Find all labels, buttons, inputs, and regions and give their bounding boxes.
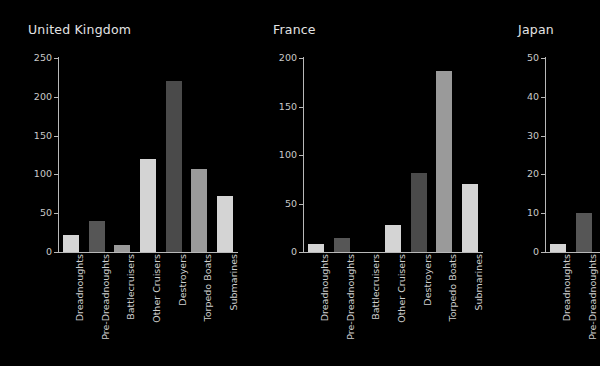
bar — [166, 81, 182, 252]
bar — [191, 169, 207, 252]
panel-title: Japan — [518, 22, 554, 37]
bar — [550, 244, 566, 252]
y-axis-tick-label: 150 — [34, 131, 52, 141]
bar — [385, 225, 401, 252]
y-axis-tick — [54, 213, 58, 214]
x-axis-category-label: Other Cruisers — [397, 254, 407, 323]
y-axis-tick-label: 200 — [279, 53, 297, 63]
x-axis-category-label: Pre-Dreadnoughts — [346, 254, 356, 340]
x-axis-category-label: Submarines — [229, 254, 239, 311]
bar — [89, 221, 105, 252]
x-axis-category-label: Submarines — [474, 254, 484, 311]
x-axis-line — [303, 252, 483, 253]
y-axis-tick-label: 0 — [46, 247, 52, 257]
y-axis-tick-label: 0 — [291, 247, 297, 257]
y-axis-tick-label: 100 — [279, 150, 297, 160]
y-axis-tick — [541, 252, 545, 253]
bar — [63, 235, 79, 252]
x-axis-category-label: Pre-Dreadnoughts — [101, 254, 111, 340]
x-axis-line — [58, 252, 238, 253]
x-axis-category-label: Dreadnoughts — [320, 254, 330, 321]
y-axis-tick-label: 50 — [527, 53, 539, 63]
y-axis-tick-label: 100 — [34, 170, 52, 180]
y-axis-tick-label: 20 — [527, 170, 539, 180]
y-axis-tick — [541, 58, 545, 59]
y-axis-tick-label: 150 — [279, 102, 297, 112]
x-axis-category-label: Torpedo Boats — [203, 254, 213, 321]
x-axis-category-label: Torpedo Boats — [448, 254, 458, 321]
y-axis-tick — [299, 252, 303, 253]
panel-title: France — [273, 22, 316, 37]
figure-canvas: United Kingdom050100150200250Dreadnought… — [0, 0, 600, 366]
y-axis-tick — [541, 174, 545, 175]
y-axis-tick — [541, 97, 545, 98]
y-axis-line — [545, 57, 546, 253]
y-axis-tick — [541, 136, 545, 137]
y-axis-tick — [299, 107, 303, 108]
bar — [462, 184, 478, 252]
y-axis-tick-label: 40 — [527, 92, 539, 102]
bar — [334, 238, 350, 252]
bar — [436, 71, 452, 252]
y-axis-tick-label: 50 — [285, 199, 297, 209]
y-axis-line — [303, 57, 304, 253]
bar — [217, 196, 233, 252]
y-axis-tick-label: 30 — [527, 131, 539, 141]
y-axis-tick-label: 50 — [40, 208, 52, 218]
bar — [308, 244, 324, 252]
x-axis-category-label: Destroyers — [178, 254, 188, 306]
plot-area: 01020304050DreadnoughtsPre-Dreadnoughts — [545, 58, 600, 252]
y-axis-line — [58, 57, 59, 253]
bar — [411, 173, 427, 252]
x-axis-category-label: Battlecruisers — [371, 254, 381, 320]
x-axis-category-label: Destroyers — [423, 254, 433, 306]
y-axis-tick — [54, 136, 58, 137]
y-axis-tick — [299, 58, 303, 59]
y-axis-tick-label: 0 — [533, 247, 539, 257]
plot-area: 050100150200DreadnoughtsPre-Dreadnoughts… — [303, 58, 483, 252]
y-axis-tick-label: 200 — [34, 92, 52, 102]
x-axis-category-label: Dreadnoughts — [562, 254, 572, 321]
x-axis-category-label: Pre-Dreadnoughts — [588, 254, 598, 340]
y-axis-tick — [541, 213, 545, 214]
y-axis-tick — [299, 155, 303, 156]
bar — [140, 159, 156, 252]
bar — [114, 245, 130, 252]
x-axis-category-label: Other Cruisers — [152, 254, 162, 323]
plot-area: 050100150200250DreadnoughtsPre-Dreadnoug… — [58, 58, 238, 252]
y-axis-tick — [54, 174, 58, 175]
y-axis-tick-label: 250 — [34, 53, 52, 63]
bar — [576, 213, 592, 252]
x-axis-category-label: Dreadnoughts — [75, 254, 85, 321]
y-axis-tick — [299, 204, 303, 205]
y-axis-tick — [54, 58, 58, 59]
y-axis-tick — [54, 97, 58, 98]
x-axis-category-label: Battlecruisers — [126, 254, 136, 320]
y-axis-tick-label: 10 — [527, 208, 539, 218]
panel-title: United Kingdom — [28, 22, 131, 37]
y-axis-tick — [54, 252, 58, 253]
